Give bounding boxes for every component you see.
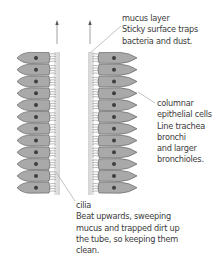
cilium <box>92 94 98 95</box>
cilium <box>92 162 98 163</box>
cilium <box>50 153 56 154</box>
cilium <box>50 129 56 130</box>
cilium <box>50 106 56 107</box>
cilium <box>92 174 98 175</box>
cilium <box>92 73 98 74</box>
epithelial-cells-right <box>92 52 137 193</box>
cilium <box>50 94 56 95</box>
upward-arrow-right-icon <box>88 20 91 44</box>
cilium <box>92 106 98 107</box>
nucleus <box>112 186 116 190</box>
nucleus <box>34 115 38 119</box>
cilium <box>50 70 56 71</box>
epithelial-cell <box>92 111 137 122</box>
cilium <box>92 92 98 93</box>
nucleus <box>112 68 116 72</box>
cilia-label-line: mucus and trapped dirt up <box>76 223 179 234</box>
cilium <box>50 172 56 173</box>
mucus-label-line: bacteria and dust. <box>122 36 198 47</box>
cilium <box>92 65 98 66</box>
cilium <box>50 177 56 178</box>
cilium <box>50 141 56 142</box>
cilium <box>50 82 56 83</box>
cilium <box>50 118 56 119</box>
cilium <box>92 101 98 102</box>
epithelial-cell <box>17 88 56 99</box>
mucus-label-title: mucus layer <box>122 13 198 24</box>
cilium <box>50 124 56 125</box>
cilium <box>92 80 98 81</box>
cilium <box>50 68 56 69</box>
cilium <box>92 139 98 140</box>
epithelial-label-title: columnar <box>157 98 212 109</box>
epithelial-cell <box>17 64 56 75</box>
cilium <box>50 139 56 140</box>
cilium <box>92 124 98 125</box>
cilium <box>50 77 56 78</box>
epithelial-label-line: and larger <box>157 143 212 154</box>
epithelial-cell <box>17 147 56 158</box>
epithelial-cell <box>17 135 56 146</box>
epithelial-cell <box>92 182 137 193</box>
cilium <box>92 85 98 86</box>
cilium <box>92 77 98 78</box>
epithelial-cell <box>92 52 137 63</box>
cilium <box>50 136 56 137</box>
epithelial-label-line: epithelial cells <box>157 109 212 120</box>
epithelial-cell <box>92 147 137 158</box>
cilium <box>50 120 56 121</box>
cilium <box>92 191 98 192</box>
epithelial-cell <box>17 159 56 170</box>
nucleus <box>112 103 116 107</box>
cilium <box>92 115 98 116</box>
cilium <box>50 191 56 192</box>
cilium <box>50 127 56 128</box>
cilium <box>50 167 56 168</box>
epithelial-cell <box>92 170 137 181</box>
cilium <box>92 129 98 130</box>
nucleus <box>112 115 116 119</box>
cilium <box>50 56 56 57</box>
cilium <box>92 59 98 60</box>
cilium <box>92 141 98 142</box>
mucus-layer-label: mucus layer Sticky surface traps bacteri… <box>122 13 198 47</box>
cilium <box>50 73 56 74</box>
nucleus <box>112 80 116 84</box>
cilium <box>50 103 56 104</box>
epithelial-cell <box>92 123 137 134</box>
epithelial-cells-label: columnar epithelial cells Line trachea b… <box>157 98 212 166</box>
cilium <box>92 153 98 154</box>
epithelial-cell <box>92 159 137 170</box>
cilium <box>50 165 56 166</box>
cilium <box>50 101 56 102</box>
cilium <box>50 156 56 157</box>
cilium <box>92 183 98 184</box>
cilia-label-title: cilia <box>76 200 179 211</box>
nucleus <box>34 174 38 178</box>
epithelial-cell <box>17 123 56 134</box>
epithelial-cell <box>17 170 56 181</box>
cilium <box>50 61 56 62</box>
cilium <box>92 127 98 128</box>
cilium <box>50 54 56 55</box>
cilium <box>50 144 56 145</box>
cilium <box>92 89 98 90</box>
cilium <box>92 148 98 149</box>
epithelial-cell <box>17 76 56 87</box>
epithelial-label-line: bronchi <box>157 132 212 143</box>
cilium <box>92 54 98 55</box>
nucleus <box>112 127 116 131</box>
nucleus <box>34 80 38 84</box>
cilium <box>92 151 98 152</box>
cilium <box>92 188 98 189</box>
cilium <box>92 113 98 114</box>
cilium <box>92 97 98 98</box>
nucleus <box>34 56 38 60</box>
mucus-leader-line <box>90 26 121 53</box>
cilium <box>50 148 56 149</box>
nucleus <box>34 186 38 190</box>
cilium <box>92 132 98 133</box>
cilia-label-line: Beat upwards, sweeping <box>76 211 179 222</box>
nucleus <box>112 91 116 95</box>
cilia-label-line: clean. <box>76 245 179 256</box>
